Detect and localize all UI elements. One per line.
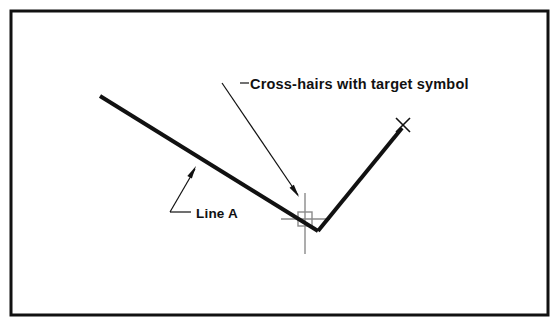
callout-crosshair-label: Cross-hairs with target symbol [250,76,469,92]
diagram-background [0,0,559,325]
diagram-canvas: Cross-hairs with target symbol Line A [0,0,559,325]
callout-line-a-label: Line A [196,206,238,221]
diagram-svg: Cross-hairs with target symbol Line A [0,0,559,325]
